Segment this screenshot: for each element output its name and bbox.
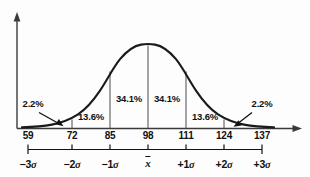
y-axis [14, 12, 21, 129]
x-bar-symbol: x [145, 158, 150, 169]
sigma-label-minus-1: −1σ [101, 159, 118, 171]
sigma-label-minus-2: −2σ [63, 159, 80, 171]
normal-distribution-figure: 2.2% 13.6% 34.1% 34.1% 13.6% 2.2% 59 72 … [0, 0, 310, 177]
sigma-label-plus-3: +3σ [253, 159, 270, 171]
sigma-label-minus-3: −3σ [19, 159, 36, 171]
region-label-minus-two-sigma: 13.6% [78, 112, 104, 122]
x-tick-label-59: 59 [23, 131, 34, 141]
sigma-label-minus-2-unit: σ [75, 159, 80, 170]
sigma-label-plus-2: +2σ [215, 159, 232, 171]
region-label-plus-two-sigma: 13.6% [192, 112, 218, 122]
sigma-label-plus-1-unit: σ [189, 159, 194, 170]
sigma-label-plus-1: +1σ [177, 159, 194, 171]
region-label-left-tail: 2.2% [23, 99, 44, 109]
region-label-plus-one-sigma: 34.1% [154, 94, 180, 104]
x-tick-label-98: 98 [143, 131, 154, 141]
x-tick-label-124: 124 [216, 131, 232, 141]
sigma-label-minus-1-unit: σ [113, 159, 118, 170]
sigma-label-plus-2-unit: σ [227, 159, 232, 170]
region-label-minus-one-sigma: 34.1% [116, 94, 142, 104]
region-label-right-tail: 2.2% [252, 99, 273, 109]
x-tick-label-72: 72 [67, 131, 78, 141]
sigma-label-plus-3-unit: σ [265, 159, 270, 170]
x-tick-label-85: 85 [105, 131, 116, 141]
x-tick-label-137: 137 [254, 131, 270, 141]
sigma-ruler [28, 145, 262, 155]
x-tick-label-111: 111 [179, 131, 194, 141]
sigma-label-minus-3-unit: σ [31, 159, 36, 170]
sigma-label-mean: x [145, 158, 150, 169]
distribution-chart-canvas [0, 0, 310, 177]
